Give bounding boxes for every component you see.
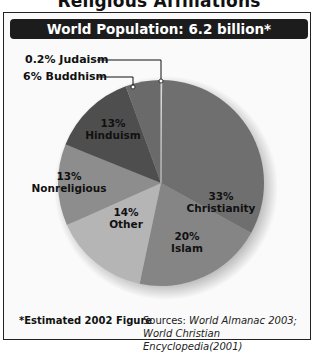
slice-label-islam: 20%Islam bbox=[171, 230, 203, 254]
judaism-leader-dot bbox=[159, 79, 163, 83]
callout-buddhism: 6% Buddhism bbox=[23, 70, 107, 83]
sources: Sources: World Almanac 2003; World Chris… bbox=[143, 314, 318, 353]
slice-label-other: 14%Other bbox=[109, 206, 144, 230]
buddhism-leader-dot bbox=[131, 85, 135, 89]
footnote: *Estimated 2002 Figure bbox=[19, 315, 152, 326]
source-2: World Christian Encyclopedia(2001) bbox=[143, 328, 242, 352]
source-1: World Almanac 2003; bbox=[189, 315, 297, 326]
callout-judaism: 0.2% Judaism bbox=[25, 53, 108, 66]
sources-label: Sources: bbox=[143, 315, 189, 326]
